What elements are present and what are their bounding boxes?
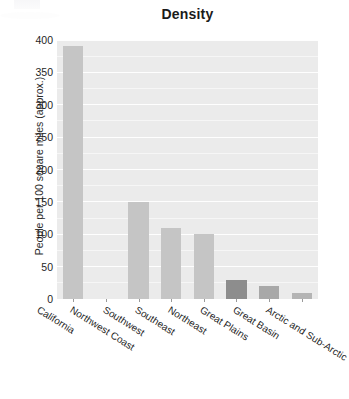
x-tick-mark-5: [236, 299, 237, 302]
x-tick-mark-7: [302, 299, 303, 302]
plot-area: [57, 40, 318, 299]
x-tick-mark-6: [269, 299, 270, 302]
scan-artifact: [14, 0, 40, 9]
bar-california: [63, 46, 83, 299]
gridline-minor-y-175: [57, 185, 318, 186]
bar-great-basin: [259, 286, 279, 299]
gridline-minor-y-125: [57, 218, 318, 219]
bar-northeast: [194, 234, 214, 299]
bar-southwest: [128, 202, 148, 299]
gridline-y-250: [57, 137, 318, 138]
gridline-y-350: [57, 72, 318, 73]
gridline-minor-y-25: [57, 282, 318, 283]
y-tick-300: 300: [3, 99, 53, 111]
bar-southeast: [161, 228, 181, 299]
gridline-minor-y-275: [57, 120, 318, 121]
x-axis-tick-labels: CaliforniaNorthwest CoastSouthwestSouthe…: [0, 299, 333, 399]
y-tick-50: 50: [3, 261, 53, 273]
x-tick-mark-4: [204, 299, 205, 302]
y-axis-tick-labels: 050100150200250300350400: [0, 40, 53, 299]
chart-title: Density: [57, 6, 318, 22]
gridline-minor-y-325: [57, 88, 318, 89]
y-tick-250: 250: [3, 131, 53, 143]
x-tick-mark-3: [171, 299, 172, 302]
scan-artifact-secondary: [0, 12, 60, 19]
gridline-minor-y-75: [57, 250, 318, 251]
y-tick-150: 150: [3, 196, 53, 208]
gridline-y-400: [57, 40, 318, 41]
gridline-y-150: [57, 201, 318, 202]
gridline-minor-y-375: [57, 56, 318, 57]
y-tick-100: 100: [3, 228, 53, 240]
bar-great-plains: [226, 280, 246, 299]
y-tick-350: 350: [3, 66, 53, 78]
gridline-minor-y-225: [57, 153, 318, 154]
gridline-y-50: [57, 266, 318, 267]
y-tick-400: 400: [3, 34, 53, 46]
gridline-y-300: [57, 104, 318, 105]
gridline-y-100: [57, 234, 318, 235]
y-tick-200: 200: [3, 164, 53, 176]
x-tick-mark-2: [139, 299, 140, 302]
x-tick-mark-0: [73, 299, 74, 302]
gridline-y-200: [57, 169, 318, 170]
x-tick-mark-1: [106, 299, 107, 302]
